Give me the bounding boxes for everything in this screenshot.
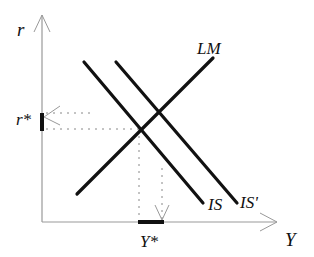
lm-label: LM — [196, 39, 221, 58]
r-shift-arrow-icon — [44, 106, 60, 125]
r-star-label: r* — [16, 110, 32, 129]
is-prime-curve — [116, 62, 237, 203]
y-axis-label: Y — [285, 229, 298, 250]
y-star-label: Y* — [140, 232, 158, 251]
is-curve — [84, 62, 203, 203]
is-label: IS — [207, 195, 223, 214]
r-axis-label: r — [17, 19, 25, 40]
is-lm-diagram: r Y LM IS IS' r* Y* — [0, 0, 314, 257]
is-prime-label: IS' — [239, 193, 258, 212]
